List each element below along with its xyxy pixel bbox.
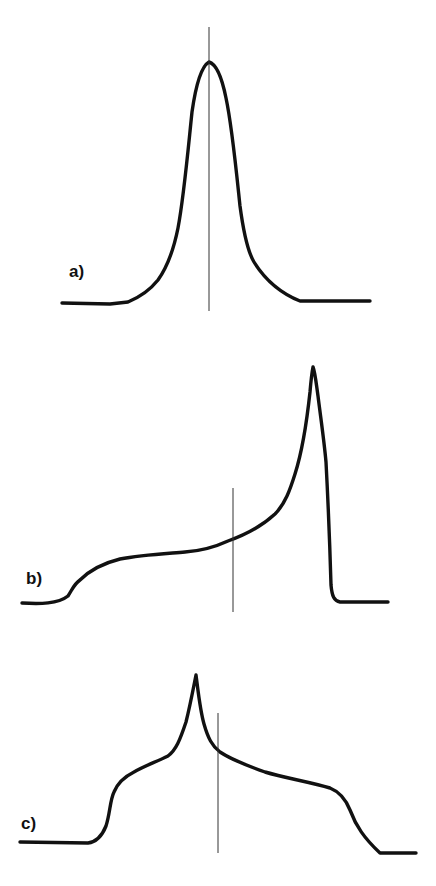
panel-c <box>20 675 416 853</box>
panel-b <box>22 367 388 612</box>
panel-label-c: c) <box>21 815 36 832</box>
panel-label-a: a) <box>69 263 84 280</box>
panel-a <box>62 27 370 311</box>
figure-canvas <box>0 0 436 886</box>
curve-b <box>22 367 388 603</box>
panel-label-b: b) <box>26 570 42 587</box>
curve-a <box>62 62 370 304</box>
lineshape-figure: a) b) c) <box>0 0 436 886</box>
